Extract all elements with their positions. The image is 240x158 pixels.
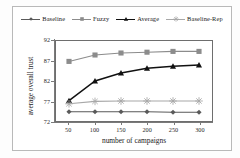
x-tick-mark <box>147 122 148 125</box>
x-tick-label: 200 <box>137 126 157 133</box>
legend-item-fuzzy[interactable]: Fuzzy <box>72 15 109 24</box>
y-tick-mark <box>51 40 54 41</box>
y-tick-mark <box>51 102 54 103</box>
x-tick-mark <box>121 122 122 125</box>
series-baseline-rep <box>65 97 203 107</box>
y-tick-mark <box>51 81 54 82</box>
chart-figure: BaselineFuzzyAverageBaseline-Rep 9287827… <box>0 0 240 158</box>
x-axis-title: number of campaigns <box>55 136 213 145</box>
data-point-marker-diamond <box>144 109 149 114</box>
data-point-marker-asterisk <box>91 98 99 106</box>
legend-glyph <box>79 16 85 22</box>
data-point-marker-asterisk <box>169 97 177 105</box>
x-axis-line <box>55 122 213 123</box>
data-point-marker-asterisk <box>195 97 203 105</box>
data-point-marker-asterisk <box>117 97 125 105</box>
data-point-marker-square <box>170 49 175 54</box>
x-tick-mark <box>68 122 69 125</box>
data-point-marker-asterisk <box>65 100 73 108</box>
plot-area <box>55 40 213 122</box>
data-point-marker-diamond <box>170 110 175 115</box>
legend-label: Baseline-Rep <box>187 15 223 23</box>
legend-item-baseline-rep[interactable]: Baseline-Rep <box>166 15 223 24</box>
legend-marker-triangle-icon <box>116 15 135 24</box>
x-tick-mark <box>95 122 96 125</box>
x-tick-label: 50 <box>58 126 78 133</box>
data-point-marker-asterisk <box>143 97 151 105</box>
x-tick-label: 100 <box>85 126 105 133</box>
legend-marker-square-icon <box>72 15 91 24</box>
data-point-marker-diamond <box>92 109 97 114</box>
x-tick-mark <box>174 122 175 125</box>
series-canvas <box>56 41 212 121</box>
data-point-marker-square <box>196 49 201 54</box>
data-point-marker-triangle <box>124 17 128 21</box>
series-fuzzy <box>66 49 201 64</box>
data-point-marker-square <box>118 50 123 55</box>
series-baseline <box>66 109 201 114</box>
y-tick-mark <box>51 122 54 123</box>
data-point-marker-square <box>66 59 71 64</box>
series-line <box>69 51 199 61</box>
series-line <box>69 65 199 101</box>
legend-glyph <box>123 16 129 22</box>
y-tick-mark <box>51 61 54 62</box>
y-axis-title: average overall trust <box>27 41 35 131</box>
data-point-marker-diamond <box>196 110 201 115</box>
series-average <box>66 62 202 103</box>
x-tick-label: 250 <box>164 126 184 133</box>
data-point-marker-square <box>80 17 84 21</box>
legend-label: Average <box>137 15 159 23</box>
legend-glyph <box>173 16 179 22</box>
data-point-marker-diamond <box>66 109 71 114</box>
x-tick-label: 300 <box>190 126 210 133</box>
legend-marker-asterisk-icon <box>166 15 185 24</box>
x-tick-label: 150 <box>111 126 131 133</box>
legend-item-average[interactable]: Average <box>116 15 159 24</box>
y-axis-title-holder: average overall trust <box>16 36 30 126</box>
legend-label: Fuzzy <box>93 15 109 23</box>
x-tick-mark <box>200 122 201 125</box>
series-line <box>69 101 199 104</box>
data-point-marker-asterisk <box>173 16 179 22</box>
data-point-marker-square <box>92 52 97 57</box>
data-point-marker-diamond <box>118 109 123 114</box>
data-point-marker-square <box>144 50 149 55</box>
